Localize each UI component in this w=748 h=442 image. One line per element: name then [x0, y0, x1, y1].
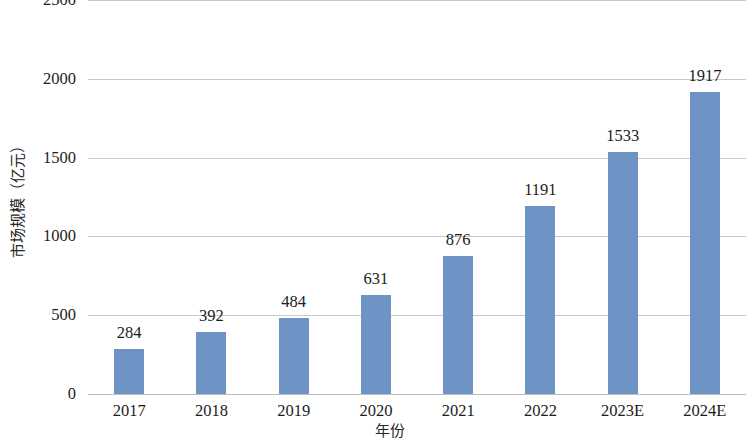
- bars-layer: 284392484631876119115331917: [88, 0, 746, 394]
- bar-value-label: 631: [364, 271, 389, 288]
- bar-slot: 484: [253, 0, 335, 394]
- bar-value-label: 1533: [606, 128, 639, 145]
- bar-value-label: 876: [446, 232, 471, 249]
- bar-value-label: 484: [281, 294, 306, 311]
- bar-value-label: 392: [199, 308, 224, 325]
- bar[interactable]: 284: [114, 349, 144, 394]
- x-axis-tick-label: 2022: [499, 398, 581, 424]
- bar[interactable]: 631: [361, 295, 391, 394]
- bar[interactable]: 876: [443, 256, 473, 394]
- bar-slot: 284: [88, 0, 170, 394]
- bar-slot: 876: [417, 0, 499, 394]
- bar-slot: 631: [335, 0, 417, 394]
- bar-value-label: 284: [117, 325, 142, 342]
- bar[interactable]: 1917: [690, 92, 720, 394]
- y-axis-tick-label: 2500: [43, 0, 76, 8]
- bar-value-label: 1917: [688, 68, 721, 85]
- bar[interactable]: 484: [279, 318, 309, 394]
- y-axis-tick-labels: 05001000150020002500: [20, 0, 82, 394]
- gridline: [88, 394, 746, 395]
- bar[interactable]: 392: [196, 332, 226, 394]
- bar[interactable]: 1191: [525, 206, 555, 394]
- y-axis-tick-label: 1500: [43, 149, 76, 166]
- bar-slot: 1917: [664, 0, 746, 394]
- plot-area: 284392484631876119115331917: [88, 0, 746, 394]
- x-axis-tick-label: 2023E: [582, 398, 664, 424]
- x-axis-title: 年份: [330, 419, 450, 440]
- x-axis-tick-label: 2019: [253, 398, 335, 424]
- y-axis-tick-label: 1000: [43, 228, 76, 245]
- bar-slot: 392: [170, 0, 252, 394]
- y-axis-tick-label: 0: [68, 386, 76, 403]
- bar-slot: 1533: [582, 0, 664, 394]
- x-axis-tick-label: 2024E: [664, 398, 746, 424]
- x-axis-tick-label: 2017: [88, 398, 170, 424]
- bar[interactable]: 1533: [608, 152, 638, 394]
- y-axis-tick-label: 2000: [43, 71, 76, 88]
- y-axis-tick-label: 500: [51, 307, 76, 324]
- x-axis-tick-label: 2018: [170, 398, 252, 424]
- bar-chart: 市场规模（亿元） 05001000150020002500 2843924846…: [0, 0, 748, 442]
- bar-slot: 1191: [499, 0, 581, 394]
- bar-value-label: 1191: [524, 182, 556, 199]
